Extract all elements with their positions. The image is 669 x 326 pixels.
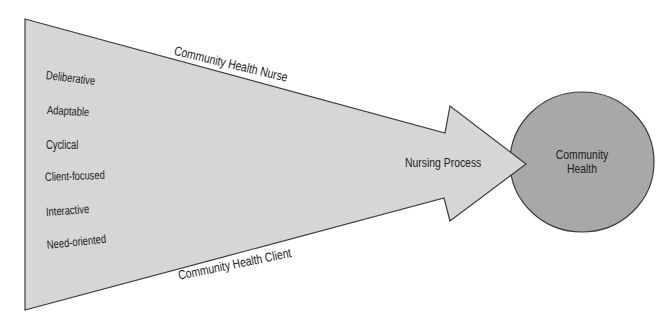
circle-label-line1: Community [526, 148, 638, 162]
funnel-label-adaptable: Adaptable [47, 104, 90, 119]
circle-label: Community Health [526, 148, 638, 176]
funnel-label-cyclical: Cyclical [46, 139, 78, 152]
diagram-canvas: Community Health Nurse Community Health … [0, 0, 669, 326]
nursing-process-label: Nursing Process [405, 156, 481, 169]
funnel-label-client-focused: Client-focused [45, 169, 105, 184]
circle-label-line2: Health [526, 162, 638, 176]
